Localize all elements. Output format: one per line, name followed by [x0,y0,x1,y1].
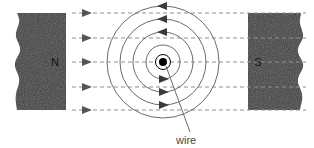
diagram-canvas: N S [0,0,314,148]
field-arrow-icon [82,9,92,17]
circle-arrow-icon [157,28,167,36]
wire-symbol [156,55,171,70]
field-arrow-icon [82,34,92,42]
wire-leader-line [166,66,190,132]
field-arrow-icon [82,106,92,114]
left-magnet: N [15,13,66,110]
field-arrow-icon [82,58,92,66]
field-arrow-icon [82,83,92,91]
circle-arrow-icon [157,2,167,10]
circle-arrow-icon [159,75,169,83]
wire-label: wire [175,134,196,146]
wire-dot-icon [159,58,167,66]
field-line-arrowheads [82,9,92,114]
circle-arrow-icon [157,15,167,23]
north-pole-label: N [51,56,59,68]
circle-arrow-icon [159,88,169,96]
circle-arrow-icon [159,101,169,109]
magnetic-field-diagram: N S [0,0,314,148]
